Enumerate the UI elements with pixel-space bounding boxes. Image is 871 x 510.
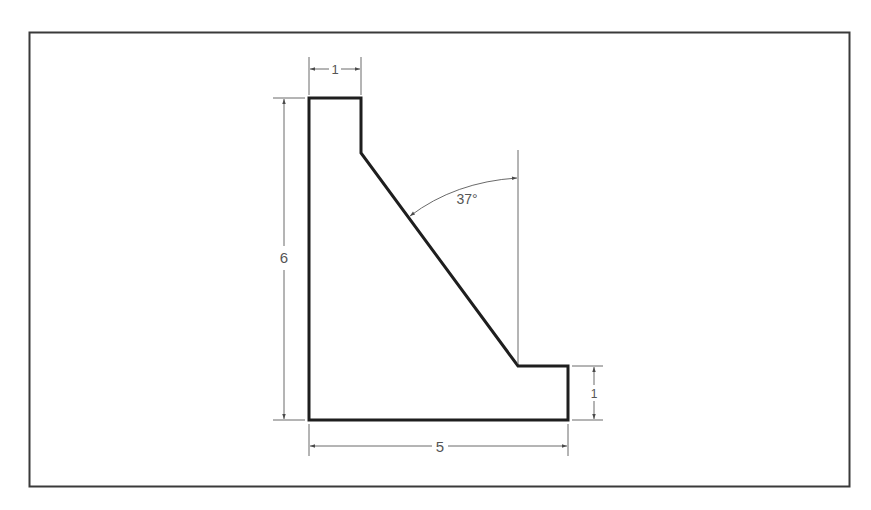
dimension-label-top-width: 1 bbox=[331, 62, 338, 77]
dimension-overall-height bbox=[273, 98, 305, 420]
dimension-label-overall-width: 5 bbox=[436, 438, 444, 455]
dimension-right-height bbox=[572, 366, 603, 420]
dimension-angle bbox=[410, 150, 518, 364]
dimension-label-overall-height: 6 bbox=[280, 249, 288, 266]
technical-drawing: 1 6 5 1 37° bbox=[0, 0, 871, 510]
dimension-label-angle: 37° bbox=[456, 191, 477, 207]
part-outline bbox=[309, 98, 568, 420]
dimension-label-right-height: 1 bbox=[591, 387, 598, 401]
